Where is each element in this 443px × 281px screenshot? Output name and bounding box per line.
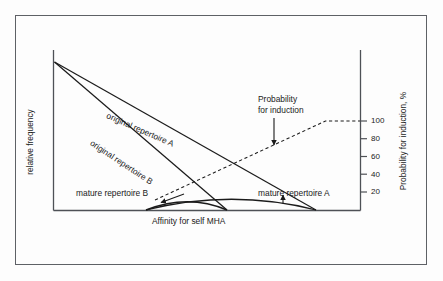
y-axis-right-tick-60: 60 [371, 152, 380, 161]
y-axis-right-tick-80: 80 [371, 134, 380, 143]
annotation-probability-line2: for induction [258, 105, 304, 116]
curve-mature-repertoire-a [146, 199, 316, 210]
axis-right-ticks [361, 121, 368, 192]
y-axis-right-title: Probability for induction, % [398, 76, 408, 206]
y-axis-left-title: relative frequency [25, 92, 35, 192]
annotation-probability-for-induction: Probability for induction [258, 94, 304, 116]
y-axis-right-tick-100: 100 [371, 116, 384, 125]
y-axis-right-tick-20: 20 [371, 187, 380, 196]
annotation-probability-line1: Probability [258, 94, 304, 105]
figure-root: relative frequency Probability for induc… [0, 0, 443, 281]
y-axis-right-tick-40: 40 [371, 170, 380, 179]
x-axis-title: Affinity for self MHA [152, 216, 225, 226]
curve-mature-repertoire-b [146, 202, 227, 210]
annotation-mature-repertoire-b: mature repertoire B [76, 188, 148, 198]
annotation-mature-repertoire-a: mature repertoire A [258, 188, 330, 198]
